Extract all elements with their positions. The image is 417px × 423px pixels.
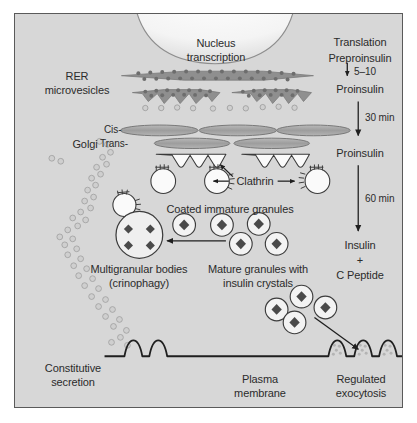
pathway-timing-5-10: 5–10 [354,66,376,77]
coated-immature-granules-label: Coated immature granules [166,203,293,216]
transcription-label: transcription [187,51,246,64]
crinophagy-label: (crinophagy) [109,277,169,290]
nucleus-label: Nucleus [196,37,235,50]
pathway-step-plus: + [357,254,363,267]
regulated-exocytosis-label-line1: Regulated [336,373,385,386]
pathway-timing-30-min: 30 min [365,112,394,123]
pathway-step-c-peptide: C Peptide [336,269,383,282]
pathway-step-preproinsulin: Preproinsulin [329,52,392,65]
exocytosis-pit-contents [332,344,393,356]
rer-label: RER [66,70,89,83]
golgi-cis-stack [120,125,350,136]
regulated-exocytosis-label-line2: exocytosis [336,387,386,400]
golgi-trans-stack [154,138,309,148]
constitutive-secretion-label-line2: secretion [51,376,95,389]
constitutive-secretion-label-line1: Constitutive [45,362,101,375]
clathrin-label: Clathrin [236,175,273,188]
rer-cisterna-mid-left [132,88,220,103]
plasma-membrane-label-line1: Plasma [242,373,278,386]
pathway-step-proinsulin-2: Proinsulin [336,147,383,160]
golgi-label: Golgi [72,138,97,151]
coated-granule-3 [299,164,330,193]
pathway-timing-60-min: 60 min [365,193,394,204]
mature-granules-label-line2: insulin crystals [223,277,293,290]
trans-label: Trans- [100,138,128,149]
diagram-frame: Nucleus transcription RER microvesicles … [14,13,403,408]
cis-label: Cis- [104,124,121,135]
rer-cisterna-top [121,70,313,82]
rer-cisterna-mid-right [232,88,312,103]
rer-microvesicle-dots [143,104,298,111]
mature-granule-cluster-upper [173,213,288,256]
multigranular-body [116,211,163,258]
exocytosis-arrow [314,317,358,349]
pathway-step-insulin: Insulin [344,239,375,252]
plasma-membrane-label-line2: membrane [234,387,286,400]
coated-granule-1 [151,164,176,193]
pathway-step-translation: Translation [334,36,387,49]
coated-granule-2 [205,164,235,193]
microvesicles-label: microvesicles [45,84,110,97]
mature-granules-label-line1: Mature granules with [208,263,308,276]
trans-golgi-network [156,154,309,167]
multigranular-bodies-label: Multigranular bodies [90,263,187,276]
pathway-step-proinsulin-1: Proinsulin [336,83,383,96]
figure-root: Nucleus transcription RER microvesicles … [0,0,417,423]
